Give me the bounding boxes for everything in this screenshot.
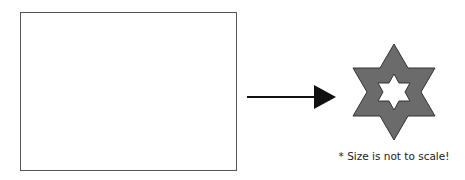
arrow-right-icon bbox=[247, 85, 336, 109]
source-box bbox=[21, 13, 237, 171]
scale-note: * Size is not to scale! bbox=[334, 150, 454, 162]
hexagram-icon bbox=[353, 44, 435, 140]
